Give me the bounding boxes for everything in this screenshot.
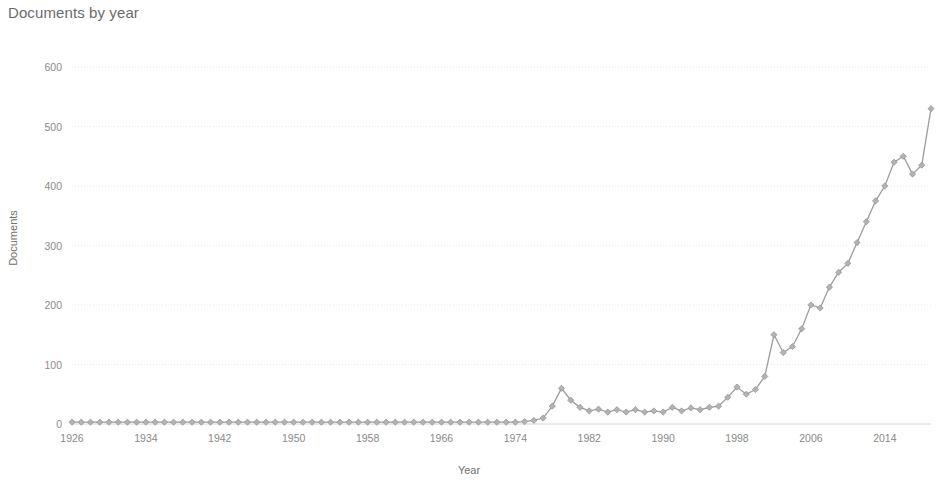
documents-by-year-chart: Documents by year 0100200300400500600 19… (0, 0, 938, 488)
y-tick-label: 200 (44, 299, 62, 311)
y-tick-label: 400 (44, 180, 62, 192)
data-point-marker (688, 405, 694, 411)
y-tick-label: 100 (44, 359, 62, 371)
x-tick-label: 1998 (725, 432, 749, 444)
x-tick-label: 2006 (799, 432, 823, 444)
data-point-marker (679, 408, 685, 414)
y-tick-label: 300 (44, 240, 62, 252)
x-axis-title: Year (0, 464, 938, 476)
data-point-marker (669, 404, 675, 410)
data-point-marker (531, 417, 537, 423)
data-point-marker (642, 409, 648, 415)
x-tick-label: 1982 (578, 432, 602, 444)
data-point-marker (854, 239, 860, 245)
data-point-marker (799, 326, 805, 332)
y-axis-tick-labels: 0100200300400500600 (44, 61, 62, 430)
x-tick-label: 1974 (504, 432, 528, 444)
y-tick-label: 0 (56, 418, 62, 430)
x-tick-label: 1958 (356, 432, 380, 444)
gridlines-group (72, 67, 931, 365)
data-point-marker (771, 332, 777, 338)
data-point-marker (863, 219, 869, 225)
data-point-marker (882, 183, 888, 189)
data-point-marker (706, 404, 712, 410)
x-axis-tick-labels: 1926193419421950195819661974198219901998… (60, 432, 896, 444)
data-point-marker (826, 284, 832, 290)
x-tick-label: 1966 (430, 432, 454, 444)
x-tick-label: 1926 (60, 432, 84, 444)
x-tick-label: 2014 (873, 432, 897, 444)
data-point-marker (623, 409, 629, 415)
x-tick-label: 1942 (208, 432, 232, 444)
x-tick-label: 1934 (134, 432, 158, 444)
data-point-marker (817, 305, 823, 311)
data-point-marker (614, 407, 620, 413)
data-point-marker (595, 406, 601, 412)
x-tick-label: 1950 (282, 432, 306, 444)
data-point-marker (660, 409, 666, 415)
documents-series-line (72, 109, 931, 423)
data-point-marker (872, 198, 878, 204)
y-tick-label: 600 (44, 61, 62, 73)
data-point-marker (605, 409, 611, 415)
data-point-marker (808, 302, 814, 308)
data-point-marker (780, 350, 786, 356)
data-point-marker (697, 407, 703, 413)
line-chart-svg: 0100200300400500600 19261934194219501958… (0, 0, 938, 488)
data-point-marker (586, 408, 592, 414)
data-point-marker (651, 408, 657, 414)
y-axis-title: Documents (7, 198, 19, 278)
x-tick-label: 1990 (651, 432, 675, 444)
data-point-marker (928, 106, 934, 112)
data-point-marker (632, 407, 638, 413)
plot-area: 0100200300400500600 19261934194219501958… (0, 0, 938, 488)
documents-series-markers (69, 106, 934, 426)
y-tick-label: 500 (44, 121, 62, 133)
